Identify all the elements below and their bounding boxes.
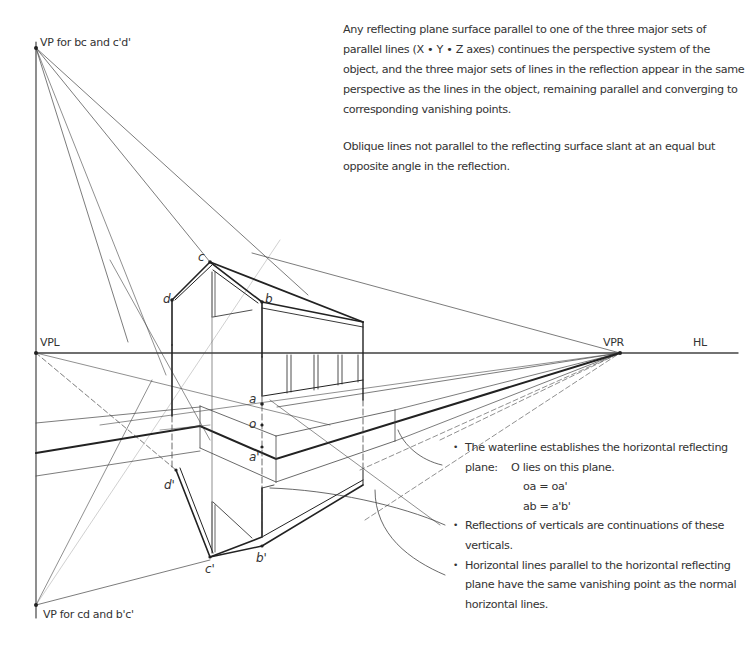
equation-ab: ab = a'b' <box>465 497 755 517</box>
point-o-label: o <box>249 417 256 431</box>
hl-label: HL <box>693 336 707 349</box>
house-reflection <box>176 468 363 557</box>
point-c-label: c <box>198 250 205 264</box>
note-horizontal-lines: Horizontal lines parallel to the horizon… <box>455 556 755 615</box>
point-d-prime-label: d' <box>164 478 175 492</box>
intro-text: Any reflecting plane surface parallel to… <box>343 20 748 194</box>
point-a-prime-label: a' <box>249 450 260 464</box>
vp-top-label: VP for bc and c'd' <box>40 36 131 49</box>
point-c-prime-label: c' <box>205 562 215 576</box>
note-reflections-of-verticals: Reflections of verticals are continuatio… <box>455 516 755 555</box>
vp-bottom-label: VP for cd and b'c' <box>43 608 134 621</box>
point-b-prime-label: b' <box>256 551 267 565</box>
note-waterline: The waterline establishes the horizontal… <box>455 438 755 516</box>
notes: The waterline establishes the horizontal… <box>455 438 755 614</box>
vpr-label: VPR <box>603 336 624 349</box>
intro-paragraph-1: Any reflecting plane surface parallel to… <box>343 20 748 120</box>
point-b-label: b <box>265 292 273 306</box>
point-a-label: a <box>249 392 256 406</box>
intro-paragraph-2: Oblique lines not parallel to the reflec… <box>343 137 748 177</box>
house <box>172 262 363 416</box>
equation-oa: oa = oa' <box>465 477 755 497</box>
vpl-label: VPL <box>40 336 59 349</box>
point-d-label: d <box>163 292 171 306</box>
